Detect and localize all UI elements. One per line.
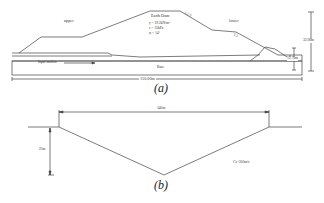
height-base-label: 12.70m <box>287 57 298 61</box>
upper-label: upper <box>64 19 74 23</box>
figure: upper lower Earth Dam γ = 19.2kN/m³ c = … <box>0 0 324 203</box>
caption-b: (b) <box>154 179 168 191</box>
base-label: Base <box>157 66 164 70</box>
valley-profile <box>59 127 269 175</box>
lower-label: lower <box>229 19 239 23</box>
upstream-berm <box>12 53 260 57</box>
height-total-label: 32.00m <box>303 39 314 43</box>
valley-width-label: 340m <box>157 107 165 111</box>
caption-a: (a) <box>154 82 168 94</box>
input-motion-label: Input motion <box>38 61 57 65</box>
dam-title: Earth Dam <box>151 14 169 18</box>
valley-depth-label: 25m <box>39 148 45 152</box>
downstream-toe <box>250 47 290 61</box>
dam-profile <box>19 11 290 61</box>
dam-param-phi: φ = 14° <box>149 32 160 36</box>
velocity-label: Cs=300m/s <box>233 161 249 165</box>
